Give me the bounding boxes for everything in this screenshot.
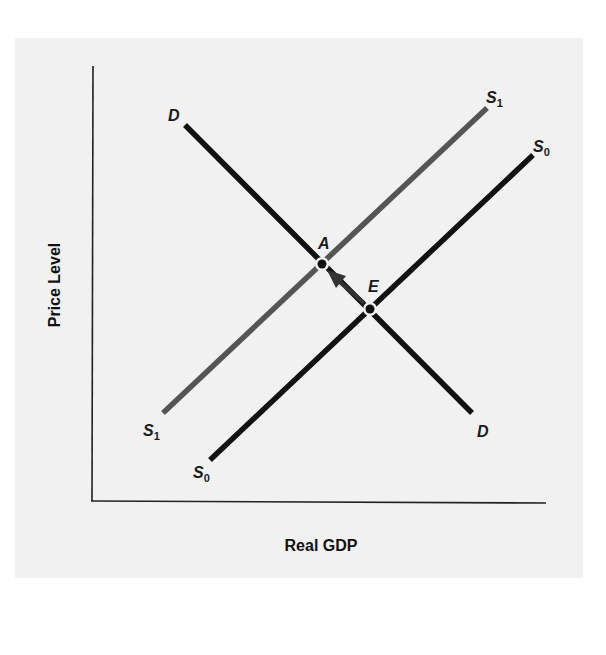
- point-e-marker: [363, 302, 377, 316]
- y-axis: [92, 66, 93, 501]
- x-axis: [91, 501, 546, 503]
- demand-curve-d: [185, 125, 472, 413]
- label-s0-bottom: S0: [193, 464, 210, 484]
- label-point-a: A: [317, 235, 330, 252]
- y-axis-title: Price Level: [46, 243, 63, 328]
- label-point-e: E: [368, 278, 380, 295]
- label-s1-bottom: S1: [143, 422, 160, 442]
- label-s0-top: S0: [533, 138, 550, 158]
- as-ad-chart: D D S1 S0 S1 S0 A E Real GDP Price Level: [0, 0, 606, 655]
- label-s1-top: S1: [486, 89, 503, 109]
- point-a-marker: [315, 257, 329, 271]
- x-axis-title: Real GDP: [285, 537, 358, 554]
- shift-arrow-icon: [327, 270, 364, 303]
- label-d-bottom: D: [477, 423, 489, 440]
- label-d-top: D: [168, 107, 180, 124]
